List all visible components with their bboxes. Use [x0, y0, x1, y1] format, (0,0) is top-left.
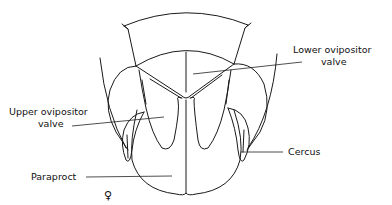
label-lower-ovipositor-valve-line1: Lower ovipositor: [293, 44, 372, 55]
female-symbol: ♀: [104, 189, 112, 202]
right-lobe: [190, 64, 267, 150]
label-lower-ovipositor-valve-line2: valve: [321, 56, 347, 67]
label-upper-ovipositor-valve-line1: Upper ovipositor: [9, 106, 88, 117]
ovipositor-diagram: Lower ovipositor valve Upper ovipositor …: [0, 0, 392, 205]
leader-lower-ovipositor-valve: [193, 62, 302, 74]
label-upper-ovipositor-valve-line2: valve: [38, 118, 64, 129]
right-cercus: [228, 108, 249, 161]
left-lobe: [108, 66, 182, 150]
left-lateral-margin: [100, 58, 126, 148]
label-paraproct: Paraproct: [31, 171, 77, 182]
label-cercus: Cercus: [288, 146, 320, 157]
lower-ovipositor-valve: [136, 50, 234, 98]
leader-paraproct: [86, 176, 172, 177]
